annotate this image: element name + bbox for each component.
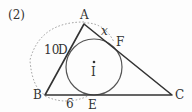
label-c: C xyxy=(175,88,184,102)
incenter-point xyxy=(93,61,96,64)
label-d: D xyxy=(58,43,68,57)
problem-number: (2) xyxy=(8,8,25,22)
label-e: E xyxy=(88,98,97,112)
measurement-af: x xyxy=(101,24,108,38)
triangle-abc xyxy=(45,24,172,95)
incircle-diagram: (2) A B C D E F I 10 6 x xyxy=(0,0,192,112)
dotted-arc-ab xyxy=(30,22,84,95)
measurement-ab: 10 xyxy=(44,43,59,57)
label-f: F xyxy=(116,35,124,49)
label-i: I xyxy=(91,65,96,79)
label-b: B xyxy=(33,88,42,102)
geometry-figure: (2) A B C D E F I 10 6 x xyxy=(0,0,192,112)
measurement-be: 6 xyxy=(66,97,74,111)
label-a: A xyxy=(79,8,89,22)
